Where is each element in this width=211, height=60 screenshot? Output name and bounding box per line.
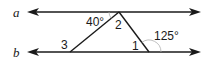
- angle-1-label: 1: [132, 39, 139, 53]
- line-a: [27, 8, 201, 16]
- line-b-label: b: [13, 45, 20, 60]
- parallel-lines-diagram: a b 40° 2 3 1 125°: [0, 0, 211, 60]
- line-b: [27, 48, 201, 56]
- angle-2-label: 2: [115, 18, 122, 32]
- angle-arc-40: [109, 12, 111, 18]
- line-a-label: a: [13, 5, 20, 20]
- angle-3-label: 3: [61, 38, 68, 52]
- angle-40-label: 40°: [86, 15, 104, 29]
- angle-125-label: 125°: [154, 29, 179, 43]
